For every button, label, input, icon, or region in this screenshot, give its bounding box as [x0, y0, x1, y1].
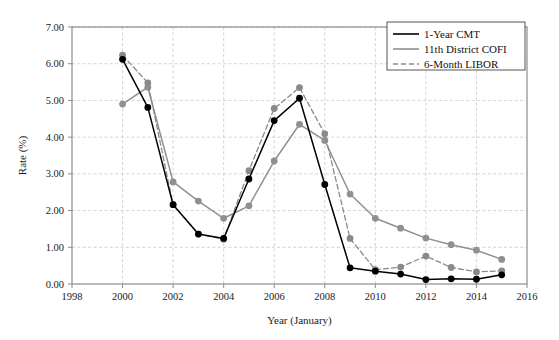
data-point — [296, 95, 303, 102]
x-tick-label: 2016 — [517, 291, 538, 302]
chart-container: 0.001.002.003.004.005.006.007.0019982000… — [0, 0, 559, 340]
x-tick-label: 2006 — [264, 291, 285, 302]
data-point — [448, 264, 455, 271]
y-tick-label: 3.00 — [46, 168, 64, 179]
data-point — [448, 275, 455, 282]
data-series-layer — [119, 52, 505, 283]
data-point — [473, 247, 480, 254]
data-point — [448, 241, 455, 248]
data-point — [372, 215, 379, 222]
data-point — [473, 268, 480, 275]
data-point — [144, 79, 151, 86]
series-line-1-year-cmt — [123, 59, 502, 279]
x-tick-label: 2000 — [112, 291, 133, 302]
x-tick-label: 2012 — [415, 291, 436, 302]
y-tick-label: 7.00 — [46, 22, 64, 33]
data-point — [296, 121, 303, 128]
series-line-6-month-libor — [123, 55, 502, 272]
data-point — [397, 271, 404, 278]
data-point — [321, 130, 328, 137]
interest-rate-line-chart: 0.001.002.003.004.005.006.007.0019982000… — [0, 0, 559, 340]
data-point — [498, 256, 505, 263]
data-point — [119, 101, 126, 108]
data-point — [271, 105, 278, 112]
data-point — [347, 235, 354, 242]
data-point — [271, 117, 278, 124]
data-point — [220, 235, 227, 242]
data-point — [246, 176, 253, 183]
y-axis-title: Rate (%) — [16, 135, 29, 175]
data-point — [473, 276, 480, 283]
data-point — [347, 264, 354, 271]
y-tick-label: 0.00 — [46, 279, 64, 290]
data-point — [422, 276, 429, 283]
y-tick-label: 5.00 — [46, 95, 64, 106]
y-tick-label: 2.00 — [46, 205, 64, 216]
data-point — [195, 198, 202, 205]
x-tick-label: 2014 — [466, 291, 488, 302]
data-point — [347, 191, 354, 198]
data-point — [422, 235, 429, 242]
data-point — [321, 181, 328, 188]
data-point — [144, 104, 151, 111]
chart-legend: 1-Year CMT11th District COFI6-Month LIBO… — [387, 22, 525, 70]
x-tick-label: 2002 — [163, 291, 184, 302]
legend-label: 6-Month LIBOR — [424, 58, 499, 70]
data-point — [119, 56, 126, 63]
y-tick-label: 4.00 — [46, 132, 64, 143]
data-point — [220, 215, 227, 222]
x-tick-label: 2004 — [213, 291, 235, 302]
data-point — [422, 253, 429, 260]
legend-label: 1-Year CMT — [424, 28, 480, 40]
x-tick-label: 1998 — [62, 291, 83, 302]
y-tick-label: 6.00 — [46, 58, 64, 69]
data-point — [372, 268, 379, 275]
data-point — [170, 201, 177, 208]
data-point — [397, 225, 404, 232]
data-point — [170, 179, 177, 186]
y-tick-label: 1.00 — [46, 242, 64, 253]
legend-label: 11th District COFI — [424, 43, 507, 55]
data-point — [397, 264, 404, 271]
data-point — [296, 84, 303, 91]
x-axis-title: Year (January) — [267, 314, 332, 327]
x-tick-label: 2010 — [365, 291, 386, 302]
data-point — [498, 271, 505, 278]
series-line-11th-district-cofi — [123, 87, 502, 259]
x-tick-label: 2008 — [314, 291, 335, 302]
data-point — [271, 158, 278, 165]
data-point — [195, 231, 202, 238]
data-point — [246, 202, 253, 209]
